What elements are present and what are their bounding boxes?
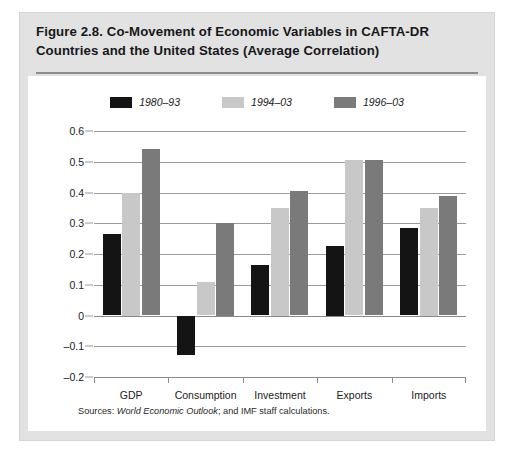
y-axis-tick [85,131,93,132]
y-axis-tick [85,377,93,378]
bar-group [168,131,242,377]
figure-panel: Figure 2.8. Co-Movement of Economic Vari… [20,13,494,440]
legend-swatch-icon [334,97,356,108]
bar[interactable] [142,149,160,315]
plot-area: 0.60.50.40.30.20.10–0.1–0.2GDPConsumptio… [94,131,466,377]
source-note: Sources: World Economic Outlook; and IMF… [78,406,330,416]
x-axis-label: Consumption [175,389,237,401]
chart-legend: 1980–931994–031996–03 [28,96,486,108]
legend-entry[interactable]: 1996–03 [334,96,404,108]
y-axis-tick-label: –0.2 [64,371,84,383]
y-axis-tick-label: 0.1 [69,279,84,291]
x-axis-label: Exports [337,389,373,401]
bar-group [243,131,317,377]
legend-swatch-icon [222,97,244,108]
legend-label: 1996–03 [363,96,404,108]
bar[interactable] [103,234,121,315]
legend-entry[interactable]: 1994–03 [222,96,292,108]
bar[interactable] [216,223,234,315]
bar[interactable] [420,208,438,316]
x-axis-label: Imports [411,389,446,401]
chart-panel: 1980–931994–031996–03 0.60.50.40.30.20.1… [28,76,486,431]
y-axis-tick-label: 0.3 [69,217,84,229]
x-axis-label: GDP [120,389,143,401]
figure-header: Figure 2.8. Co-Movement of Economic Vari… [36,23,482,60]
legend-swatch-icon [110,97,132,108]
source-publication: World Economic Outlook [117,406,218,416]
y-axis-tick [85,346,93,347]
source-prefix: Sources: [78,406,117,416]
gridline [94,377,466,378]
page-title: Figure 2.8. Co-Movement of Economic Vari… [36,23,482,60]
bar[interactable] [400,228,418,316]
x-axis-tick [243,377,244,383]
y-axis-tick-label: 0.4 [69,187,84,199]
x-axis-tick [168,377,169,383]
y-axis-tick-label: –0.1 [64,340,84,352]
bar[interactable] [177,316,195,356]
x-axis-tick [465,377,466,383]
x-axis-label: Investment [254,389,305,401]
x-axis-tick [392,377,393,383]
bar[interactable] [197,282,215,316]
bar[interactable] [271,208,289,316]
y-axis-tick [85,254,93,255]
y-axis-tick [85,284,93,285]
bar-group [94,131,168,377]
y-axis-tick-label: 0 [78,310,84,322]
legend-entry[interactable]: 1980–93 [110,96,180,108]
x-axis-tick [317,377,318,383]
y-axis-tick-label: 0.2 [69,248,84,260]
bar[interactable] [122,193,140,316]
legend-label: 1980–93 [139,96,180,108]
x-axis-tick [94,377,95,383]
bar[interactable] [290,191,308,316]
bar[interactable] [439,196,457,316]
y-axis-tick-label: 0.5 [69,156,84,168]
bar-group [317,131,391,377]
bar[interactable] [365,160,383,315]
legend-label: 1994–03 [251,96,292,108]
bar[interactable] [345,160,363,315]
y-axis-tick [85,161,93,162]
title-divider [36,72,478,74]
y-axis-tick [85,192,93,193]
bar[interactable] [251,265,269,316]
y-axis-tick [85,223,93,224]
source-suffix: ; and IMF staff calculations. [218,406,330,416]
bar[interactable] [326,246,344,315]
y-axis-tick [85,315,93,316]
bar-group [392,131,466,377]
y-axis-tick-label: 0.6 [69,125,84,137]
